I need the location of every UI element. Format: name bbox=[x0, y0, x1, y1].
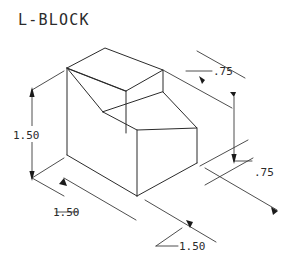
ext-line-width-bottom-a bbox=[145, 200, 216, 242]
page-title: L-BLOCK bbox=[18, 11, 90, 29]
ext-line-step-height-b bbox=[205, 158, 253, 185]
step-top-face bbox=[103, 92, 197, 130]
top-face-tall bbox=[67, 48, 163, 91]
isometric-drawing-svg: L-BLOCK bbox=[0, 0, 289, 258]
bottom-right-edge bbox=[137, 163, 197, 196]
arrow-head-step-height-down bbox=[231, 154, 236, 164]
ext-line-bottom-left bbox=[32, 158, 64, 178]
dim-label-width-bottom: 1.50 bbox=[179, 240, 206, 253]
left-face-lower-edge bbox=[67, 155, 137, 196]
ext-line-depth-left-a bbox=[32, 178, 64, 196]
arrow-head-step-top bbox=[199, 76, 205, 84]
dim-label-depth-front-left: 1.50 bbox=[53, 206, 80, 219]
dimension-step-top-right: .75 bbox=[163, 51, 245, 108]
dimension-height-left: 1.50 bbox=[11, 71, 64, 181]
ext-line-top-left bbox=[32, 71, 64, 90]
dim-label-height-left: 1.50 bbox=[13, 129, 40, 142]
arrow-head-step-top-2 bbox=[230, 92, 236, 97]
l-block-solid bbox=[67, 48, 197, 196]
technical-drawing-canvas: L-BLOCK bbox=[0, 0, 289, 258]
arrow-head-width-bottom bbox=[186, 220, 193, 228]
dim-label-step-top-right: .75 bbox=[213, 65, 233, 78]
ext-line-step-height-a bbox=[200, 140, 248, 166]
dimension-depth-front-left: 1.50 bbox=[32, 178, 136, 220]
dim-label-step-height-right: .75 bbox=[254, 166, 274, 179]
